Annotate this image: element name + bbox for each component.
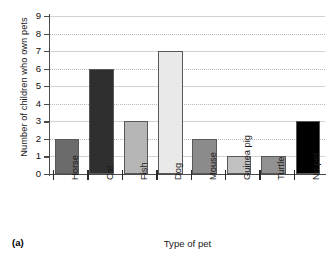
x-tick-label: Guinea pig xyxy=(243,135,252,180)
gridline xyxy=(50,16,325,17)
x-tick-mark xyxy=(53,170,54,180)
y-tick-mark xyxy=(44,16,50,17)
plot-area xyxy=(50,16,325,174)
y-tick-mark xyxy=(44,51,50,52)
x-tick-label: Cat xyxy=(106,166,115,180)
y-tick-mark xyxy=(44,69,50,70)
y-axis-line xyxy=(49,14,50,176)
y-tick-mark xyxy=(44,156,50,157)
x-tick-mark xyxy=(225,170,226,180)
x-tick-label: Turtle xyxy=(277,157,286,180)
x-tick-label: Dog xyxy=(174,163,183,180)
x-tick-label: Fish xyxy=(140,162,149,180)
y-tick-mark xyxy=(44,174,50,175)
x-tick-mark xyxy=(191,170,192,180)
gridline xyxy=(50,51,325,52)
figure-caption: (a) xyxy=(12,237,24,248)
x-tick-mark xyxy=(156,170,157,180)
x-tick-label: Horse xyxy=(71,155,80,180)
figure-a: Number of children who own pets 01234567… xyxy=(0,0,336,262)
bar-dog xyxy=(158,51,182,174)
y-tick-label: 7 xyxy=(27,46,41,56)
y-tick-label: 4 xyxy=(27,99,41,109)
y-tick-mark xyxy=(44,121,50,122)
x-tick-mark xyxy=(87,170,88,180)
y-tick-mark xyxy=(44,86,50,87)
y-tick-mark xyxy=(44,139,50,140)
x-tick-label: Mouse xyxy=(209,152,218,180)
x-tick-mark xyxy=(294,170,295,180)
y-tick-mark xyxy=(44,104,50,105)
bar-cat xyxy=(89,69,113,174)
y-tick-label: 9 xyxy=(27,11,41,21)
y-tick-label: 5 xyxy=(27,81,41,91)
y-tick-label: 0 xyxy=(27,169,41,179)
y-tick-label: 3 xyxy=(27,116,41,126)
x-tick-mark xyxy=(122,170,123,180)
y-tick-mark xyxy=(44,34,50,35)
x-axis-title: Type of pet xyxy=(50,238,325,249)
gridline xyxy=(50,34,325,35)
y-tick-label: 8 xyxy=(27,29,41,39)
y-tick-label: 2 xyxy=(27,134,41,144)
x-tick-mark xyxy=(259,170,260,180)
x-tick-label: No pet xyxy=(312,153,321,180)
y-tick-label: 1 xyxy=(27,151,41,161)
y-tick-label: 6 xyxy=(27,64,41,74)
